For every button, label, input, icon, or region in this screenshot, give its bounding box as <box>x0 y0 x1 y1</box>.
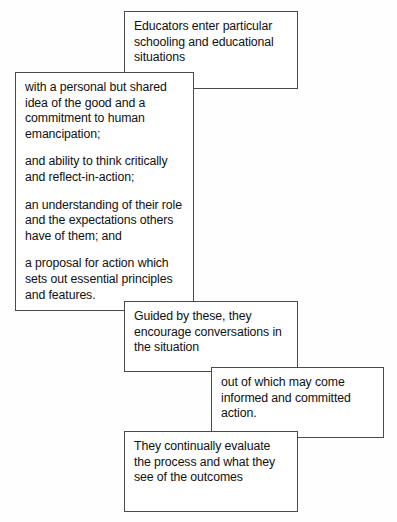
qualities-paragraph-4: a proposal for action which sets out ess… <box>25 256 184 303</box>
outcome-box: out of which may come informed and commi… <box>211 367 384 438</box>
entry-box-text: Educators enter particular schooling and… <box>134 19 288 66</box>
qualities-paragraph-1: with a personal but shared idea of the g… <box>25 80 184 142</box>
qualities-paragraph-2: and ability to think critically and refl… <box>25 154 184 185</box>
guided-box: Guided by these, they encourage conversa… <box>124 301 298 372</box>
qualities-box: with a personal but shared idea of the g… <box>15 72 194 311</box>
diagram-canvas: Educators enter particular schooling and… <box>0 0 397 522</box>
outcome-box-text: out of which may come informed and commi… <box>221 375 374 422</box>
qualities-paragraph-3: an understanding of their role and the e… <box>25 198 184 245</box>
guided-box-text: Guided by these, they encourage conversa… <box>134 309 288 356</box>
evaluate-box: They continually evaluate the process an… <box>124 431 298 512</box>
evaluate-box-text: They continually evaluate the process an… <box>134 439 288 486</box>
